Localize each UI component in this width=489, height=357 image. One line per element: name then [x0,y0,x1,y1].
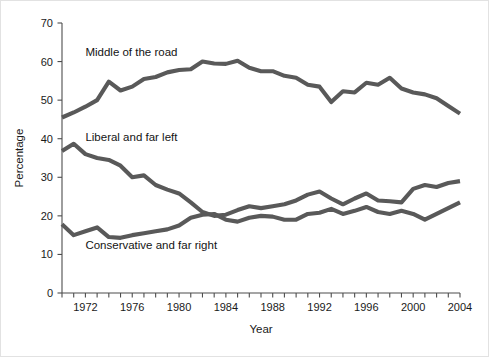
x-tick-label: 1996 [354,301,378,313]
y-tick-label: 40 [41,133,53,145]
y-tick-label: 20 [41,210,53,222]
y-tick-label: 50 [41,94,53,106]
chart-figure: 010203040506070 197219761980198419881992… [0,0,489,357]
y-tick-label: 70 [41,17,53,29]
series-label-2: Conservative and far right [85,239,217,251]
y-axis-ticks: 010203040506070 [41,17,62,299]
y-axis-title: Percentage [13,129,25,188]
series-line-1 [62,144,460,216]
series-lines [62,61,460,238]
series-label-0: Middle of the road [85,46,177,58]
y-tick-label: 60 [41,56,53,68]
x-tick-label: 1984 [214,301,238,313]
x-tick-label: 1976 [120,301,144,313]
x-tick-label: 1972 [73,301,97,313]
x-axis-title: Year [249,323,272,335]
y-tick-label: 30 [41,171,53,183]
x-axis-ticks: 197219761980198419881992199620002004 [62,293,472,313]
series-label-1: Liberal and far left [85,131,178,143]
line-chart-plot: 010203040506070 197219761980198419881992… [1,1,489,357]
x-tick-label: 1988 [260,301,284,313]
y-tick-label: 10 [41,248,53,260]
y-tick-label: 0 [47,287,53,299]
series-line-0 [62,61,460,118]
x-tick-label: 1992 [307,301,331,313]
x-tick-label: 2004 [448,301,472,313]
x-tick-label: 1980 [167,301,191,313]
x-tick-label: 2000 [401,301,425,313]
